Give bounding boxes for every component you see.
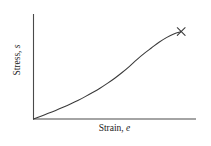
failure-point-marker <box>177 28 185 36</box>
stress-strain-figure: Stress, s Strain, e <box>0 0 211 146</box>
stress-strain-curve <box>34 32 182 119</box>
plot-canvas <box>0 0 211 146</box>
